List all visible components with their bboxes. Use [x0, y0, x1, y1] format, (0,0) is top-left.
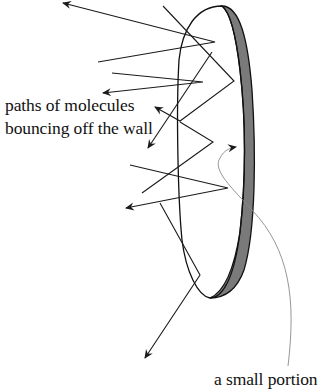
wall-band [210, 6, 254, 298]
paths-label-line1: paths of molecules [5, 97, 134, 115]
molecule-path-3 [155, 6, 234, 121]
wall-outline [178, 6, 245, 298]
small-portion-label: a small portion [214, 371, 317, 389]
molecule-path-4 [148, 52, 212, 148]
molecule-path-1 [63, 3, 215, 62]
molecule-paths [63, 3, 234, 358]
molecule-wall-diagram [0, 0, 334, 392]
molecule-path-7 [145, 203, 200, 358]
wall [178, 6, 255, 298]
molecule-path-6 [126, 165, 228, 208]
paths-label-line2: bouncing off the wall [5, 120, 153, 138]
molecule-path-2 [103, 73, 203, 93]
